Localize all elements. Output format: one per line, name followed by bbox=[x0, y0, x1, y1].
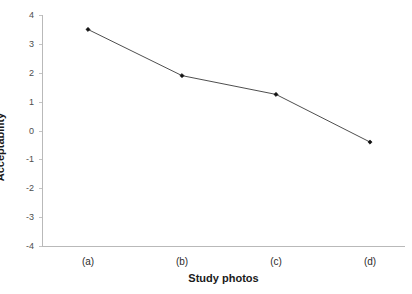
y-tick-label: 1 bbox=[4, 97, 34, 107]
x-axis-title: Study photos bbox=[42, 272, 405, 284]
data-point-marker bbox=[274, 92, 278, 96]
y-tick-label: 3 bbox=[4, 39, 34, 49]
x-tick-label: (d) bbox=[340, 256, 400, 267]
y-tick-label: 2 bbox=[4, 68, 34, 78]
y-tick-label: 0 bbox=[4, 126, 34, 136]
y-tick-label: -1 bbox=[4, 154, 34, 164]
series-plot bbox=[42, 15, 405, 247]
y-tick-label: -3 bbox=[4, 212, 34, 222]
series-markers bbox=[86, 27, 372, 144]
series-line bbox=[88, 29, 370, 142]
y-tick-label: -4 bbox=[4, 241, 34, 251]
y-tick-label: -2 bbox=[4, 183, 34, 193]
plot-area: 43210-1-2-3-4 (a)(b)(c)(d) bbox=[42, 15, 405, 247]
x-tick-label: (b) bbox=[152, 256, 212, 267]
data-point-marker bbox=[180, 74, 184, 78]
data-point-marker bbox=[86, 27, 90, 31]
acceptability-line-chart: Acceptability 43210-1-2-3-4 (a)(b)(c)(d)… bbox=[0, 0, 412, 294]
x-tick-label: (a) bbox=[58, 256, 118, 267]
x-tick-label: (c) bbox=[246, 256, 306, 267]
data-point-marker bbox=[368, 140, 372, 144]
y-tick-label: 4 bbox=[4, 10, 34, 20]
